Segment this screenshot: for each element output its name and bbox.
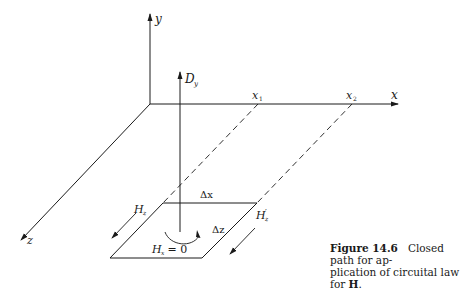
x-axis-label: x [391, 88, 398, 102]
hz-subscript: z [142, 209, 147, 216]
caption-end: . [359, 278, 362, 290]
x2-subscript: 2 [353, 95, 357, 102]
x1-subscript: 1 [259, 95, 263, 102]
y-axis-label: y [154, 12, 162, 26]
delta-x-label: Δx [200, 189, 213, 200]
x2-dashed-line [257, 104, 352, 203]
z-axis-label: z [26, 234, 33, 247]
z-axis [21, 104, 150, 240]
hx-equals-zero: = 0 [164, 243, 187, 256]
hz-prime-subscript: z [264, 215, 269, 222]
x2-label: x [346, 89, 353, 102]
x1-label: x [252, 89, 259, 102]
figure-number: Figure 14.6 [330, 242, 398, 254]
dy-subscript: y [193, 80, 199, 88]
hz-prime-arrow [230, 228, 255, 254]
figure-caption: Figure 14.6 Closed path for ap- plicatio… [330, 242, 466, 290]
circulation-arrowhead [196, 230, 201, 238]
caption-bold-h: H [349, 278, 359, 290]
delta-z-label: Δz [212, 224, 225, 235]
